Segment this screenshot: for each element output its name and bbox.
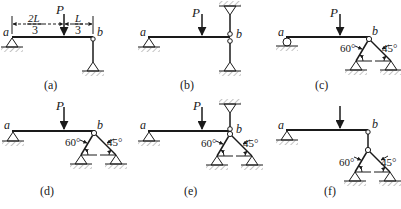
angle-label-left: 60° <box>339 156 354 168</box>
load-label: P <box>191 5 200 20</box>
end-label-a: a <box>140 25 146 39</box>
pin-support-icon <box>1 38 23 52</box>
load-label: P <box>192 98 201 113</box>
end-label-a: a <box>278 118 284 132</box>
ceiling-pin-icon <box>219 1 241 15</box>
caption-c: (c) <box>315 78 328 92</box>
angle-label-right: 45° <box>107 136 122 148</box>
load-label: P <box>55 2 64 17</box>
ceiling-pin-icon <box>219 99 241 113</box>
end-label-b: b <box>97 25 103 39</box>
end-label-b: b <box>372 24 378 38</box>
structural-diagram: a b P 2L 3 L 3 (a) a b P (b) a b P 60° 4… <box>0 0 401 209</box>
pin-support-icon <box>276 131 298 145</box>
caption-d: (d) <box>40 184 54 198</box>
end-label-a: a <box>3 25 9 39</box>
caption-a: (a) <box>44 78 57 92</box>
end-label-b: b <box>97 118 103 132</box>
angle-label-right: 45° <box>381 156 396 168</box>
pin-support-icon <box>138 38 160 52</box>
load-label: P <box>55 98 64 113</box>
end-label-b: b <box>236 27 242 41</box>
load-label: P <box>329 5 338 20</box>
dim-denominator: 3 <box>75 23 81 37</box>
panel-e: a b P 60° 45° (e) <box>138 98 263 198</box>
panel-a: a b P 2L 3 L 3 (a) <box>1 2 104 92</box>
pin-support-icon <box>219 62 241 76</box>
caption-f: (f) <box>324 184 336 198</box>
caption-b: (b) <box>180 78 194 92</box>
panel-c: a b P 60° 45° (c) <box>276 5 401 92</box>
panel-b: a b P (b) <box>138 1 242 92</box>
angle-label-right: 45° <box>243 137 258 149</box>
end-label-a: a <box>140 118 146 132</box>
end-label-a: a <box>4 118 10 132</box>
angle-label-left: 60° <box>340 42 355 54</box>
pin-support-icon <box>2 132 24 146</box>
angle-label-left: 60° <box>65 136 80 148</box>
end-label-b: b <box>236 122 242 136</box>
pin-support-icon <box>82 62 104 76</box>
panel-f: a b 60° 45° (f) <box>276 106 401 198</box>
angle-label-right: 45° <box>382 42 397 54</box>
pin-support-icon <box>138 132 160 146</box>
end-label-a: a <box>278 25 284 39</box>
roller-support-icon <box>276 38 298 51</box>
caption-e: (e) <box>184 184 197 198</box>
dim-denominator: 3 <box>32 23 38 37</box>
angle-label-left: 60° <box>201 137 216 149</box>
panel-d: a b P 60° 45° (d) <box>2 98 127 198</box>
end-label-b: b <box>372 117 378 131</box>
